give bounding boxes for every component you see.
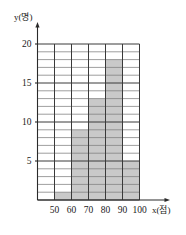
x-axis-arrow-icon [165,198,171,202]
histogram-bar [55,192,72,200]
histogram-bar [89,99,106,200]
x-tick-label: 70 [84,205,94,215]
grid-lines [38,44,140,200]
y-axis-arrow-icon [35,22,39,28]
y-axis-tick-labels: 5101520 [22,39,38,166]
x-tick-label: 50 [50,205,60,215]
x-tick-label: 80 [101,205,111,215]
x-tick-label: 90 [118,205,128,215]
y-tick-label: 15 [22,78,32,88]
x-axis-tick-labels: 5060708090100 [50,205,147,215]
histogram-bar [123,161,140,200]
chart-canvas: 5101520 5060708090100 y(명) x(점) [0,0,186,235]
y-tick-label: 5 [27,156,32,166]
x-tick-label: 60 [67,205,77,215]
x-axis-label: x(점) [152,204,171,215]
x-tick-label: 100 [132,205,147,215]
y-tick-label: 20 [22,39,32,49]
histogram-bar [72,130,89,200]
y-axis-label: y(명) [14,12,33,22]
y-tick-label: 10 [22,117,32,127]
histogram-chart: 5101520 5060708090100 y(명) x(점) [0,0,186,235]
